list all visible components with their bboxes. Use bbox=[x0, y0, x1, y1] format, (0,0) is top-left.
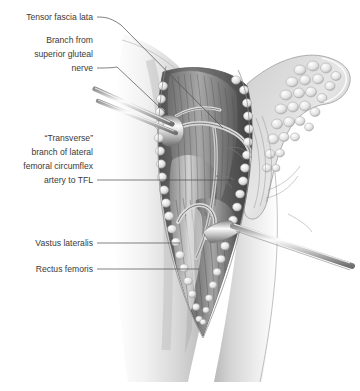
label-line: nerve bbox=[72, 63, 94, 73]
anatomical-illustration-figure: Tensor fascia lata Branch from superior … bbox=[0, 0, 360, 391]
illustration-canvas: Tensor fascia lata Branch from superior … bbox=[0, 0, 360, 391]
svg-text:Branch from: Branch from bbox=[46, 35, 93, 45]
label-line: branch of lateral bbox=[31, 147, 93, 157]
leader-line bbox=[97, 67, 117, 68]
label-line: artery to TFL bbox=[44, 175, 93, 185]
label-line: Branch from bbox=[46, 35, 93, 45]
label-line: Tensor fascia lata bbox=[26, 12, 93, 22]
leader-line bbox=[97, 17, 121, 25]
svg-text:Rectus femoris: Rectus femoris bbox=[36, 264, 93, 274]
skin-crease bbox=[288, 214, 312, 232]
label-line: femoral circumflex bbox=[23, 161, 93, 171]
svg-text:femoral circumflex: femoral circumflex bbox=[23, 161, 93, 171]
svg-text:Vastus lateralis: Vastus lateralis bbox=[35, 238, 93, 248]
label-line: Rectus femoris bbox=[36, 264, 93, 274]
label-line: Vastus lateralis bbox=[35, 238, 93, 248]
svg-text:“Transverse”: “Transverse” bbox=[45, 133, 94, 143]
label-line: “Transverse” bbox=[45, 133, 94, 143]
label-line: superior gluteal bbox=[34, 49, 93, 59]
svg-text:superior gluteal: superior gluteal bbox=[34, 49, 93, 59]
retracted-skin-flap bbox=[243, 55, 350, 219]
svg-text:artery to TFL: artery to TFL bbox=[44, 175, 93, 185]
svg-text:branch of lateral: branch of lateral bbox=[31, 147, 93, 157]
svg-text:nerve: nerve bbox=[72, 63, 94, 73]
svg-text:Tensor fascia lata: Tensor fascia lata bbox=[26, 12, 93, 22]
